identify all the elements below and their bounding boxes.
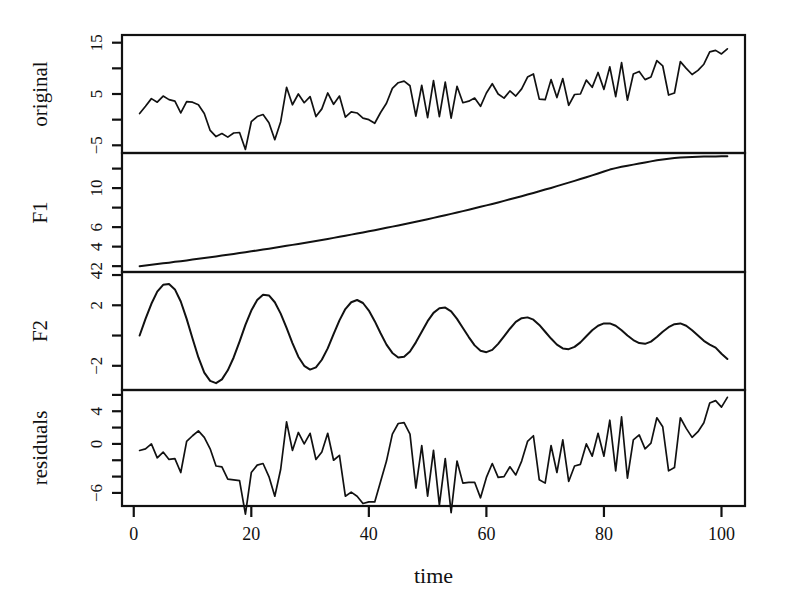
- x-tick-label: 20: [242, 524, 260, 544]
- y-tick-label: 10: [87, 180, 106, 197]
- y-tick-label: 4: [87, 270, 106, 279]
- series-line-F1: [140, 156, 728, 266]
- decomposition-figure: 155−5original10642F142−2F240−6residuals0…: [0, 0, 785, 614]
- panel-label-original: original: [28, 61, 52, 126]
- y-tick-label: 2: [87, 301, 106, 310]
- y-tick-label: −5: [87, 136, 106, 154]
- panel-border: [122, 390, 745, 506]
- panel-F2: 42−2F2: [28, 270, 745, 390]
- y-tick-label: −2: [87, 357, 106, 375]
- panel-F1: 10642F1: [28, 153, 745, 272]
- panel-residuals: 40−6residuals: [28, 390, 745, 514]
- panel-label-F2: F2: [28, 320, 52, 342]
- panel-label-F1: F1: [28, 201, 52, 223]
- panel-label-residuals: residuals: [28, 411, 52, 486]
- y-tick-label: 4: [87, 242, 106, 251]
- y-tick-label: 6: [87, 223, 106, 232]
- y-tick-label: 0: [87, 440, 106, 449]
- y-tick-label: 4: [87, 406, 106, 415]
- x-tick-label: 40: [360, 524, 378, 544]
- panel-border: [122, 153, 745, 272]
- panel-original: 155−5original: [28, 34, 745, 154]
- x-tick-label: 100: [708, 524, 735, 544]
- series-line-residuals: [140, 397, 728, 514]
- series-line-F2: [140, 284, 728, 383]
- x-tick-label: 0: [129, 524, 138, 544]
- series-line-original: [140, 49, 728, 150]
- x-tick-label: 60: [477, 524, 495, 544]
- y-tick-label: −6: [87, 484, 106, 502]
- time-series-decomposition-plot: 155−5original10642F142−2F240−6residuals0…: [0, 0, 785, 614]
- x-tick-label: 80: [595, 524, 613, 544]
- x-axis-title: time: [414, 563, 453, 588]
- panel-border: [122, 272, 745, 390]
- y-tick-label: 5: [87, 90, 106, 99]
- y-tick-label: 2: [87, 262, 106, 271]
- x-axis: 020406080100time: [129, 506, 735, 588]
- y-tick-label: 15: [87, 34, 106, 51]
